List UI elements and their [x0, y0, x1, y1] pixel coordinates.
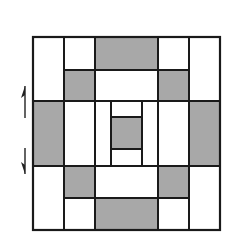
cell-top-right-tall	[189, 37, 220, 101]
cell-bottom-right-tall	[189, 166, 220, 230]
cell-bottom-center-upper	[95, 166, 158, 198]
cell-top-col4-lower	[158, 70, 189, 101]
cell-mid-col4	[158, 101, 189, 166]
pattern-cells	[33, 37, 220, 230]
down-arrow-icon	[21, 148, 25, 174]
cell-center-top	[111, 101, 142, 117]
cell-mid-col2	[64, 101, 95, 166]
cell-top-col2-lower	[64, 70, 95, 101]
up-arrow-icon	[21, 86, 25, 118]
cell-bottom-center-lower	[95, 198, 158, 230]
cell-center-right-strip	[142, 101, 158, 166]
cell-bottom-col4-lower	[158, 198, 189, 230]
cell-bottom-col4-upper	[158, 166, 189, 198]
cell-top-left-tall	[33, 37, 64, 101]
cell-mid-left	[33, 101, 64, 166]
cell-mid-right	[189, 101, 220, 166]
direction-arrows	[21, 86, 25, 174]
cell-center-bottom	[111, 149, 142, 166]
cell-top-col4-upper	[158, 37, 189, 70]
cell-center-core	[111, 117, 142, 149]
cell-center-left-strip	[95, 101, 111, 166]
cell-top-center-lower	[95, 70, 158, 101]
cell-bottom-col2-upper	[64, 166, 95, 198]
cell-bottom-col2-lower	[64, 198, 95, 230]
cell-top-center-upper	[95, 37, 158, 70]
quilt-pattern-diagram	[0, 0, 244, 243]
cell-bottom-left-tall	[33, 166, 64, 230]
cell-top-col2-upper	[64, 37, 95, 70]
